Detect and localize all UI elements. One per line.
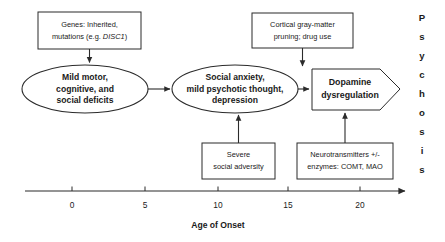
psychosis-letter-0: P bbox=[419, 12, 426, 23]
psychosis-letter-3: c bbox=[419, 69, 425, 80]
neurotransmitters-box-line2: enzymes: COMT, MAO bbox=[307, 162, 383, 171]
cortical-box-line1: Cortical gray-matter bbox=[270, 20, 335, 29]
adversity-box-line2: social adversity bbox=[213, 162, 264, 171]
psychosis-letter-6: s bbox=[419, 126, 424, 137]
stage2-line1: Social anxiety, bbox=[205, 72, 264, 82]
stage3-line2: dysregulation bbox=[321, 90, 379, 100]
axis-tick-label-10: 10 bbox=[213, 200, 223, 210]
stage1-line2: cognitive, and bbox=[56, 84, 114, 94]
cortical-box-line2: pruning; drug use bbox=[274, 32, 332, 41]
psychosis-letter-2: y bbox=[419, 50, 425, 61]
stage2-line3: depression bbox=[212, 95, 258, 105]
axis-tick-label-5: 5 bbox=[143, 200, 148, 210]
stage1-line1: Mild motor, bbox=[62, 72, 108, 82]
axis-tick-labels: 0 5 10 15 20 bbox=[70, 200, 365, 210]
genes-box-line1: Genes: Inherited, bbox=[61, 20, 118, 29]
axis-tick-label-0: 0 bbox=[70, 200, 75, 210]
diagram-canvas: Genes: Inherited, mutations (e.g. DISC1)… bbox=[0, 0, 445, 242]
stage2-line2: mild psychotic thought, bbox=[187, 84, 284, 94]
genes-line2-italic: DISC1 bbox=[103, 32, 125, 41]
cortical-box bbox=[252, 13, 353, 48]
axis-ticks bbox=[72, 187, 360, 192]
genes-line2-post: ) bbox=[125, 32, 127, 41]
psychosis-letter-8: s bbox=[419, 164, 424, 175]
adversity-box bbox=[202, 143, 275, 179]
psychosis-letter-1: s bbox=[419, 31, 424, 42]
genes-line2-pre: mutations (e.g. bbox=[52, 32, 103, 41]
axis-tick-label-15: 15 bbox=[283, 200, 293, 210]
psychosis-trajectory-diagram: Genes: Inherited, mutations (e.g. DISC1)… bbox=[0, 0, 445, 242]
neurotransmitters-box bbox=[297, 143, 393, 179]
genes-box-line2: mutations (e.g. DISC1) bbox=[52, 32, 127, 41]
stage3-line1: Dopamine bbox=[329, 77, 372, 87]
adversity-box-line1: Severe bbox=[227, 150, 250, 159]
axis-tick-label-20: 20 bbox=[355, 200, 365, 210]
genes-box bbox=[38, 12, 141, 49]
psychosis-vertical-label: P s y c h o s i s bbox=[419, 12, 426, 175]
axis-title: Age of Onset bbox=[191, 220, 245, 230]
psychosis-letter-5: o bbox=[419, 107, 425, 118]
psychosis-letter-4: h bbox=[419, 88, 425, 99]
stage1-line3: social deficits bbox=[57, 95, 114, 105]
neurotransmitters-box-line1: Neurotransmitters +/- bbox=[310, 150, 380, 159]
psychosis-letter-7: i bbox=[421, 145, 424, 156]
